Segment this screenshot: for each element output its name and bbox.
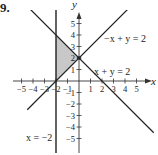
x-tick-label: 2 xyxy=(100,84,104,94)
line-1 xyxy=(27,1,136,110)
line-label-neg-x-plus-y: −x + y = 2 xyxy=(104,33,146,44)
x-tick-label: −5 xyxy=(17,84,26,94)
line-label-x-plus-y: x + y = 2 xyxy=(94,66,130,77)
y-tick-label: −2 xyxy=(66,99,75,109)
y-tick-label: 2 xyxy=(71,53,75,63)
line-2 xyxy=(22,1,154,133)
coordinate-plane: −5−4−3−2−11234554321−1−2−3−4−5 x y −x + … xyxy=(0,0,158,155)
y-tick-label: 4 xyxy=(71,30,76,40)
y-axis-label: y xyxy=(71,0,77,10)
x-tick-label: −4 xyxy=(28,84,38,94)
x-tick-label: 4 xyxy=(123,84,128,94)
y-tick-label: −3 xyxy=(66,111,75,121)
y-axis-arrow-icon xyxy=(77,12,82,19)
y-tick-label: −1 xyxy=(66,88,75,98)
y-tick-label: 5 xyxy=(71,19,75,29)
y-tick-label: −4 xyxy=(66,122,76,132)
intersection-point xyxy=(77,56,81,60)
graph-figure: 9. −5−4−3−2−11234554321−1−2−3−4−5 x y −x… xyxy=(0,0,158,155)
shaded-feasible-region xyxy=(56,35,79,81)
line-label-x-eq-neg2: x = −2 xyxy=(26,132,52,143)
x-tick-label: 1 xyxy=(88,84,92,94)
problem-number: 9. xyxy=(0,0,10,16)
x-tick-label: 5 xyxy=(134,84,138,94)
y-tick-label: −5 xyxy=(66,134,75,144)
x-axis-label: x xyxy=(150,75,156,87)
